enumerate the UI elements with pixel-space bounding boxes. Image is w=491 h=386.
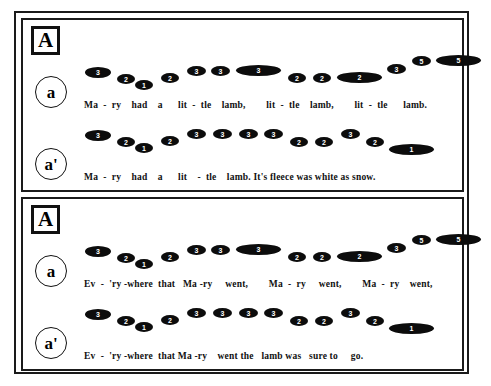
pitch-note-value: 5	[420, 58, 424, 65]
pitch-note-value: 2	[124, 318, 128, 325]
pitch-note: 2	[161, 315, 179, 325]
pitch-note: 3	[211, 245, 230, 255]
pitch-note-value: 1	[410, 146, 414, 153]
pitch-note-value: 3	[195, 310, 199, 317]
pitch-note-value: 3	[395, 66, 399, 73]
pitch-note: 2	[161, 252, 179, 262]
pitch-note-value: 1	[142, 261, 146, 268]
pitch-note: 2	[288, 252, 306, 262]
pitch-note: 3	[187, 308, 206, 318]
pitch-note: 1	[135, 143, 153, 153]
pitch-note-value: 3	[221, 131, 225, 138]
pitch-note: 2	[315, 316, 333, 326]
pitch-note: 1	[135, 259, 153, 269]
lyrics-line-top-ap: Ma - ry had a lit - tle lamb. It's fleec…	[84, 172, 375, 182]
pitch-note-value: 5	[457, 57, 461, 64]
pitch-note-value: 3	[96, 311, 100, 318]
pitch-note: 3	[213, 308, 232, 318]
pitch-note: 2	[117, 137, 135, 147]
pitch-note-value: 2	[322, 139, 326, 146]
pitch-note-value: 5	[420, 237, 424, 244]
pitch-note-value: 2	[358, 253, 362, 260]
pitch-note-value: 2	[295, 254, 299, 261]
pitch-note: 3	[85, 246, 111, 257]
pitch-note-value: 2	[168, 317, 172, 324]
panel-bottom: Aa3212333222355Ev - 'ry -where that Ma -…	[21, 197, 464, 371]
pitch-note-value: 2	[124, 255, 128, 262]
pitch-note: 3	[187, 245, 206, 255]
pitch-note-value: 3	[219, 68, 223, 75]
pitch-note: 5	[436, 55, 481, 66]
pitch-note-value: 3	[96, 248, 100, 255]
pitch-note-value: 2	[297, 139, 301, 146]
pitch-note: 2	[313, 73, 331, 83]
pitch-contour-bottom-a: 3212333222355	[23, 229, 462, 281]
pitch-note: 3	[341, 308, 360, 318]
pitch-note-value: 3	[272, 131, 276, 138]
pitch-note: 2	[161, 73, 179, 83]
pitch-note-value: 3	[96, 69, 100, 76]
pitch-note-value: 3	[247, 131, 251, 138]
pitch-note: 3	[236, 65, 281, 76]
pitch-note: 3	[387, 243, 406, 253]
pitch-note-value: 3	[221, 310, 225, 317]
pitch-note-value: 3	[257, 67, 261, 74]
phrase-row-top-ap: a'3212333322321Ma - ry had a lit - tle l…	[23, 122, 462, 194]
pitch-note: 3	[387, 64, 406, 74]
pitch-note-value: 2	[322, 318, 326, 325]
pitch-note-value: 3	[195, 131, 199, 138]
pitch-note-value: 2	[124, 76, 128, 83]
pitch-note-value: 2	[373, 318, 377, 325]
pitch-note-value: 2	[168, 75, 172, 82]
pitch-note: 5	[436, 234, 481, 245]
pitch-note: 3	[341, 129, 360, 139]
pitch-note: 1	[389, 323, 434, 334]
pitch-note-value: 2	[168, 254, 172, 261]
pitch-note: 2	[290, 137, 308, 147]
panel-top: Aa3212333222355Ma - ry had a lit - tle l…	[21, 18, 464, 192]
pitch-note: 3	[264, 308, 283, 318]
pitch-note: 1	[135, 322, 153, 332]
pitch-note-value: 2	[295, 75, 299, 82]
pitch-note-value: 2	[124, 139, 128, 146]
pitch-note-value: 1	[142, 324, 146, 331]
pitch-note-value: 1	[142, 82, 146, 89]
phrase-row-bottom-a: a3212333222355Ev - 'ry -where that Ma -r…	[23, 229, 462, 301]
pitch-note-value: 3	[195, 247, 199, 254]
pitch-note: 1	[389, 144, 434, 155]
pitch-note: 2	[337, 72, 382, 83]
pitch-note-value: 2	[320, 254, 324, 261]
pitch-note: 3	[239, 308, 258, 318]
pitch-note-value: 2	[297, 318, 301, 325]
pitch-note: 3	[236, 244, 281, 255]
lyrics-line-bottom-ap: Ev - 'ry -where that Ma -ry went the lam…	[84, 351, 363, 361]
figure-container: Aa3212333222355Ma - ry had a lit - tle l…	[14, 11, 469, 374]
pitch-note: 3	[187, 129, 206, 139]
pitch-note-value: 3	[349, 310, 353, 317]
pitch-note-value: 3	[257, 246, 261, 253]
pitch-note-value: 3	[247, 310, 251, 317]
pitch-contour-top-ap: 3212333322321	[23, 122, 462, 174]
pitch-note: 3	[264, 129, 283, 139]
pitch-note: 3	[213, 129, 232, 139]
phrase-row-top-a: a3212333222355Ma - ry had a lit - tle la…	[23, 50, 462, 122]
pitch-note: 1	[135, 80, 153, 90]
pitch-note: 2	[315, 137, 333, 147]
pitch-note-value: 2	[320, 75, 324, 82]
pitch-note: 2	[288, 73, 306, 83]
pitch-note: 2	[337, 251, 382, 262]
pitch-note: 3	[85, 309, 111, 320]
pitch-note-value: 2	[373, 139, 377, 146]
pitch-note-value: 3	[272, 310, 276, 317]
phrase-row-bottom-ap: a'3212333322321Ev - 'ry -where that Ma -…	[23, 301, 462, 373]
pitch-note-value: 1	[142, 145, 146, 152]
lyrics-line-top-a: Ma - ry had a lit - tle lamb, lit - tle …	[84, 100, 427, 110]
pitch-note-value: 1	[410, 325, 414, 332]
pitch-note-value: 5	[457, 236, 461, 243]
pitch-note: 3	[187, 66, 206, 76]
pitch-note: 3	[239, 129, 258, 139]
pitch-note: 2	[313, 252, 331, 262]
pitch-note-value: 2	[168, 138, 172, 145]
pitch-note: 5	[412, 235, 431, 245]
pitch-note: 2	[366, 137, 384, 147]
